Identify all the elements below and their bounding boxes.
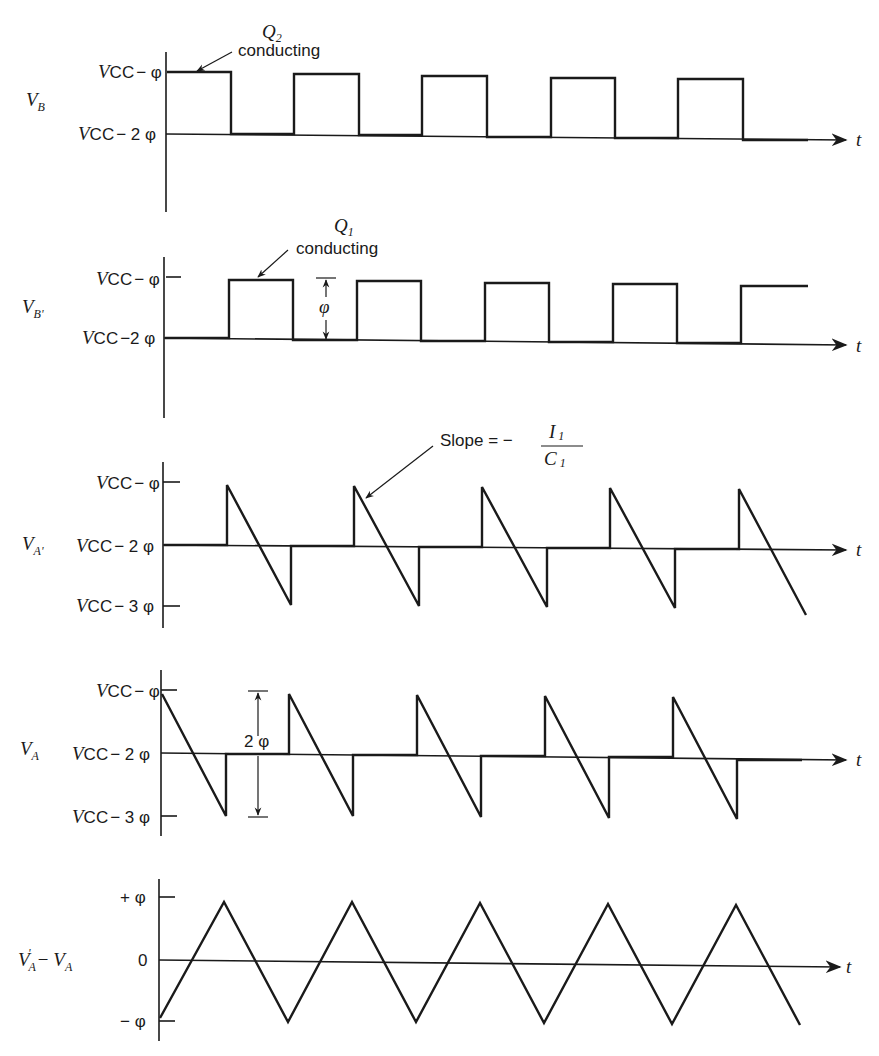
annotation-arrow xyxy=(258,250,288,277)
panel-va: VA VCC− φ VCC− 2 φ VCC− 3 φ t 2 φ xyxy=(20,670,862,836)
vb-waveform xyxy=(167,72,808,140)
time-label: t xyxy=(856,539,862,560)
signal-label-vap: VA' xyxy=(22,533,44,558)
level-label-top: VCC− φ xyxy=(96,472,160,493)
time-axis xyxy=(163,545,846,550)
level-label-bot: − φ xyxy=(120,1012,146,1031)
annotation-arrow xyxy=(197,52,232,71)
level-label-mid: VCC−2 φ xyxy=(82,327,155,348)
panel-vb: VB VCC− φ VCC− 2 φ t Q2 conducting xyxy=(26,21,862,212)
panel-vap: VA' VCC− φ VCC− 2 φ VCC− 3 φ t Slope = −… xyxy=(22,421,862,628)
annotation-slope: Slope = − I1 C1 xyxy=(366,421,583,498)
svg-text:2 φ: 2 φ xyxy=(244,732,269,751)
time-axis xyxy=(159,960,840,967)
level-label-top: VCC− φ xyxy=(96,680,160,701)
svg-text:Slope = −: Slope = − xyxy=(440,431,513,450)
panel-diff: VA'−VA + φ 0 − φ t xyxy=(18,879,852,1041)
annotation-q1: Q1 xyxy=(334,215,354,239)
time-axis xyxy=(164,338,846,345)
signal-label-vbp: VB' xyxy=(22,296,44,321)
time-label: t xyxy=(846,956,852,977)
annotation-conducting: conducting xyxy=(296,239,378,258)
time-label: t xyxy=(856,335,862,356)
svg-text:φ: φ xyxy=(319,296,330,317)
annotation-conducting: conducting xyxy=(238,41,320,60)
level-label-bot: VCC− 3 φ xyxy=(76,595,154,616)
signal-label-diff: VA'−VA xyxy=(18,946,73,974)
level-label-top: VCC− φ xyxy=(96,268,160,289)
time-label: t xyxy=(856,749,862,770)
level-label-bot: VCC− 3 φ xyxy=(72,806,150,827)
level-label-mid: VCC− 2 φ xyxy=(76,535,154,556)
panel-vbp: VB' VCC− φ VCC−2 φ t Q1 conducting φ xyxy=(22,215,862,418)
level-label-mid: VCC− 2 φ xyxy=(72,743,150,764)
timing-diagram: VB VCC− φ VCC− 2 φ t Q2 conducting VB' V… xyxy=(0,0,879,1056)
level-label-top: VCC− φ xyxy=(98,61,162,82)
level-label-mid: 0 xyxy=(138,951,147,970)
level-label-top: + φ xyxy=(120,888,146,907)
signal-label-vb: VB xyxy=(26,89,46,114)
time-label: t xyxy=(856,129,862,150)
svg-text:C1: C1 xyxy=(544,448,566,470)
level-label-mid: VCC− 2 φ xyxy=(78,123,156,144)
annotation-arrow xyxy=(366,446,433,498)
vbp-waveform xyxy=(165,280,808,343)
signal-label-va: VA xyxy=(20,738,40,763)
svg-text:I1: I1 xyxy=(548,421,564,443)
dimension-phi: φ xyxy=(316,278,336,339)
vap-waveform xyxy=(164,485,806,615)
